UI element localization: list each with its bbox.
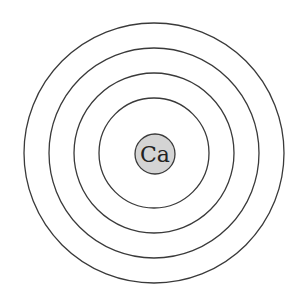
bohr-diagram: Ca — [0, 0, 307, 291]
element-symbol: Ca — [140, 142, 170, 167]
